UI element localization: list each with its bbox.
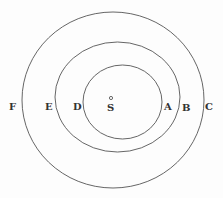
concentric-orbits-diagram: S F E D A B C bbox=[0, 0, 223, 198]
inner-circle bbox=[83, 65, 162, 139]
label-d: D bbox=[73, 102, 82, 112]
orbits-svg bbox=[0, 0, 223, 198]
center-point-icon bbox=[109, 96, 112, 99]
label-a: A bbox=[164, 102, 172, 112]
label-e: E bbox=[45, 102, 53, 112]
outer-circle bbox=[22, 12, 204, 188]
label-c: C bbox=[205, 102, 213, 112]
label-f: F bbox=[9, 102, 16, 112]
center-label: S bbox=[107, 103, 114, 113]
label-b: B bbox=[182, 103, 190, 113]
